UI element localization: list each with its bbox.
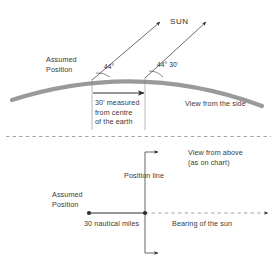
sun-label: SUN [170,17,189,27]
view-from-above-caption-line2: (as on chart) [188,158,230,168]
bearing-of-sun-label: Bearing of the sun [172,219,232,229]
position-line-label: Position line [124,171,164,181]
angle-arc-right [149,71,163,77]
angle-label-right: 44° 30' [157,60,178,70]
assumed-position-label-above-line1: Assumed [52,190,83,200]
measure-note-line1: 30' measured [95,98,140,108]
assumed-position-label-side-line1: Assumed [46,55,77,65]
view-from-side-caption: View from the side [185,99,246,109]
navigation-diagram: SUN Assumed Position 44° 44° 30' 30' mea… [0,0,277,271]
sun-ray-actual-position [145,22,206,78]
assumed-position-marker [87,211,91,215]
sun-ray-assumed-position [92,22,160,80]
position-line-intersection-marker [143,211,147,215]
view-from-above-caption-line1: View from above [188,148,243,158]
assumed-position-label-above-line2: Position [52,200,78,210]
distance-label: 30 nautical miles [84,219,139,229]
measure-note-line2: from centre [95,108,132,118]
assumed-position-label-side-line2: Position [46,65,72,75]
measure-note-line3: of the earth [95,117,133,127]
diagram-canvas [0,0,277,271]
angle-label-left: 44° [104,62,114,72]
